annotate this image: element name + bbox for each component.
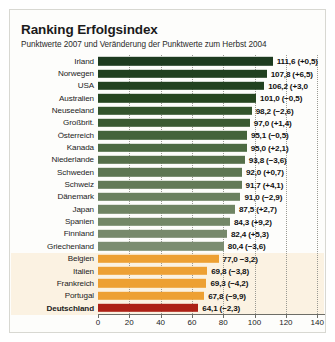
bar bbox=[98, 143, 247, 151]
bar-value-label: 91,0 (−2,9) bbox=[244, 192, 282, 201]
bar-track: 111,6 (+0,5) bbox=[98, 55, 325, 67]
bar-row: Niederlande93,8 (−3,6) bbox=[10, 154, 325, 166]
bar-row-label: Großbrit. bbox=[10, 118, 98, 127]
bar-row: Italien69,8 (−3,8) bbox=[10, 265, 325, 277]
bar bbox=[98, 180, 242, 188]
bar-row-label: Australien bbox=[10, 94, 98, 103]
bar bbox=[98, 267, 207, 275]
bar bbox=[98, 106, 252, 114]
bar-row: Schweden92,0 (+0,7) bbox=[10, 166, 325, 178]
bar-row-label: Griechenland bbox=[10, 242, 98, 251]
bar-value-label: 98,2 (−2,6) bbox=[256, 106, 294, 115]
tick-label: 100 bbox=[248, 318, 261, 327]
bar-row: Österreich95,1 (−0,5) bbox=[10, 129, 325, 141]
bar-row: Schweiz91,7 (+4,1) bbox=[10, 178, 325, 190]
bar-row: USA106,2 (+3,0 bbox=[10, 80, 325, 92]
bar bbox=[98, 119, 250, 127]
bar-row-label: Norwegen bbox=[10, 69, 98, 78]
bar-row-label: Neuseeland bbox=[10, 106, 98, 115]
bar-row: Neuseeland98,2 (−2,6) bbox=[10, 104, 325, 116]
bar-row: Dänemark91,0 (−2,9) bbox=[10, 191, 325, 203]
bar-track: 84,3 (+9,2) bbox=[98, 215, 325, 227]
bar-row: Spanien84,3 (+9,2) bbox=[10, 215, 325, 227]
bar-value-label: 87,5 (+2,7) bbox=[239, 205, 277, 214]
bar bbox=[98, 131, 247, 139]
bar-track: 69,8 (−3,8) bbox=[98, 265, 325, 277]
bar bbox=[98, 292, 204, 300]
bar-track: 77,0 −3,2) bbox=[98, 253, 325, 265]
bar-row: Kanada95,0 (+2,1) bbox=[10, 141, 325, 153]
bar-row-label: Schweden bbox=[10, 168, 98, 177]
bar bbox=[98, 69, 267, 77]
bar bbox=[98, 168, 242, 176]
bar bbox=[98, 94, 256, 102]
bar-track: 93,8 (−3,6) bbox=[98, 154, 325, 166]
bar-value-label: 92,0 (+0,7) bbox=[246, 168, 284, 177]
bar-track: 64,1 (−2,3) bbox=[98, 302, 325, 314]
bar-value-label: 69,8 (−3,8) bbox=[211, 267, 249, 276]
bar-row-label: Frankreich bbox=[10, 279, 98, 288]
bar bbox=[98, 279, 206, 287]
bar-row-label: Irland bbox=[10, 57, 98, 66]
bar-track: 101,0 (−0,5) bbox=[98, 92, 325, 104]
bar-value-label: 80,4 (−3,6) bbox=[228, 242, 266, 251]
bar-row: Portugal67,8 (−9,9) bbox=[10, 290, 325, 302]
bar-track: 106,2 (+3,0 bbox=[98, 80, 325, 92]
bar-value-label: 93,8 (−3,6) bbox=[249, 155, 287, 164]
bar-row-label: USA bbox=[10, 81, 98, 90]
bar-row-label: Italien bbox=[10, 267, 98, 276]
bar-value-label: 91,7 (+4,1) bbox=[246, 180, 284, 189]
bar-row: Belgien77,0 −3,2) bbox=[10, 253, 325, 265]
bar-row-label: Schweiz bbox=[10, 180, 98, 189]
bar-track: 91,0 (−2,9) bbox=[98, 191, 325, 203]
bar bbox=[98, 193, 240, 201]
bar-row-label: Spanien bbox=[10, 217, 98, 226]
bar-track: 98,2 (−2,6) bbox=[98, 104, 325, 116]
bar-row: Frankreich69,3 (−4,2) bbox=[10, 277, 325, 289]
bar-value-label: 67,8 (−9,9) bbox=[208, 291, 246, 300]
bar-row-label: Dänemark bbox=[10, 192, 98, 201]
bar-track: 95,1 (−0,5) bbox=[98, 129, 325, 141]
bar-track: 80,4 (−3,6) bbox=[98, 240, 325, 252]
bar-value-label: 64,1 (−2,3) bbox=[202, 304, 240, 313]
bar bbox=[98, 304, 198, 312]
bar-track: 69,3 (−4,2) bbox=[98, 277, 325, 289]
bar-track: 92,0 (+0,7) bbox=[98, 166, 325, 178]
tick-label: 20 bbox=[125, 318, 134, 327]
bar bbox=[98, 205, 235, 213]
bar bbox=[98, 82, 264, 90]
tick-label: 0 bbox=[96, 318, 100, 327]
bar-track: 67,8 (−9,9) bbox=[98, 290, 325, 302]
bar-row-label: Niederlande bbox=[10, 155, 98, 164]
tick-label: 40 bbox=[156, 318, 165, 327]
bar-row: Großbrit.97,0 (+1,4) bbox=[10, 117, 325, 129]
bar-value-label: 97,0 (+1,4) bbox=[254, 118, 292, 127]
chart-card: Ranking Erfolgsindex Punktwerte 2007 und… bbox=[9, 9, 326, 333]
bar bbox=[98, 217, 230, 225]
bar-value-label: 107,8 (+6,5) bbox=[271, 69, 313, 78]
bar bbox=[98, 57, 273, 65]
tick-label: 80 bbox=[219, 318, 228, 327]
bar-value-label: 106,2 (+3,0 bbox=[268, 81, 308, 90]
bar-value-label: 82,4 (+5,3) bbox=[231, 229, 269, 238]
bar-row-label: Finnland bbox=[10, 229, 98, 238]
chart-header: Ranking Erfolgsindex Punktwerte 2007 und… bbox=[10, 10, 325, 49]
bar-row: Australien101,0 (−0,5) bbox=[10, 92, 325, 104]
bar-row-label: Österreich bbox=[10, 131, 98, 140]
x-axis-line bbox=[98, 314, 325, 315]
bar-value-label: 101,0 (−0,5) bbox=[260, 94, 302, 103]
bar-row: Finnland82,4 (+5,3) bbox=[10, 228, 325, 240]
bar-value-label: 95,0 (+2,1) bbox=[251, 143, 289, 152]
bar-track: 87,5 (+2,7) bbox=[98, 203, 325, 215]
bar-value-label: 84,3 (+9,2) bbox=[234, 217, 272, 226]
bar bbox=[98, 230, 227, 238]
bar-rows: Irland111,6 (+0,5)Norwegen107,8 (+6,5)US… bbox=[10, 55, 325, 314]
bar bbox=[98, 254, 219, 262]
chart-plot-area: Irland111,6 (+0,5)Norwegen107,8 (+6,5)US… bbox=[10, 55, 325, 333]
tick-label: 140 bbox=[310, 318, 323, 327]
bar-track: 97,0 (+1,4) bbox=[98, 117, 325, 129]
tick-label: 120 bbox=[279, 318, 292, 327]
bar-row-label: Kanada bbox=[10, 143, 98, 152]
bar-row: Griechenland80,4 (−3,6) bbox=[10, 240, 325, 252]
bar bbox=[98, 242, 224, 250]
